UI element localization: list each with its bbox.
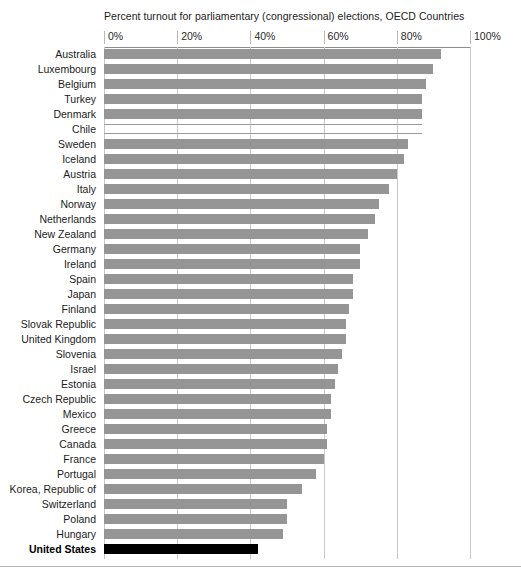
- bar: [104, 544, 258, 554]
- bar-row-label: Spain: [0, 273, 96, 285]
- bar: [104, 304, 349, 314]
- x-axis-tick-label: 100%: [470, 30, 501, 42]
- x-axis-tick-label: 20%: [177, 30, 202, 42]
- bar-row: Sweden: [0, 137, 521, 152]
- bar-row-label: France: [0, 453, 96, 465]
- chart-title: Percent turnout for parliamentary (congr…: [104, 10, 464, 23]
- x-axis-tick-mark: [470, 31, 471, 44]
- bar-row: France: [0, 452, 521, 467]
- bar-row: Korea, Republic of: [0, 482, 521, 497]
- bar: [104, 514, 287, 524]
- x-axis-tick-label: 0%: [104, 30, 123, 42]
- bar-row: Hungary: [0, 527, 521, 542]
- bar: [104, 94, 422, 104]
- bar-row-label: Iceland: [0, 153, 96, 165]
- bar-row: Greece: [0, 422, 521, 437]
- bar: [104, 454, 324, 464]
- bar: [104, 199, 379, 209]
- x-axis-tick-text: 80%: [401, 30, 422, 42]
- bar-row: Mexico: [0, 407, 521, 422]
- x-axis-tick-label: 40%: [250, 30, 275, 42]
- x-axis-tick-mark: [177, 31, 178, 44]
- bar: [104, 274, 353, 284]
- bar: [104, 109, 422, 119]
- bar-row: Japan: [0, 287, 521, 302]
- bar: [104, 169, 397, 179]
- x-axis-tick-mark: [324, 31, 325, 44]
- bar-row: Belgium: [0, 77, 521, 92]
- bar: [104, 394, 331, 404]
- x-axis-tick-text: 60%: [328, 30, 349, 42]
- bar-row-label: Finland: [0, 303, 96, 315]
- bar-row-label: New Zealand: [0, 228, 96, 240]
- bar-row: Denmark: [0, 107, 521, 122]
- bar: [104, 379, 335, 389]
- bar-row: Estonia: [0, 377, 521, 392]
- bar-row-label: Switzerland: [0, 498, 96, 510]
- bar: [104, 499, 287, 509]
- x-axis-tick-text: 0%: [108, 30, 123, 42]
- bar-row-label: United Kingdom: [0, 333, 96, 345]
- chart-left-edge: [0, 0, 1, 566]
- bar-row-label: Canada: [0, 438, 96, 450]
- bar: [104, 229, 368, 239]
- bar-row-label: Germany: [0, 243, 96, 255]
- bar-row: Norway: [0, 197, 521, 212]
- bar: [104, 139, 408, 149]
- bar-row-label: Norway: [0, 198, 96, 210]
- bar-row-label: Netherlands: [0, 213, 96, 225]
- bar-row-label: Greece: [0, 423, 96, 435]
- bar-row-label: United States: [0, 543, 96, 555]
- x-axis-tick-mark: [250, 31, 251, 44]
- bar-row-label: Sweden: [0, 138, 96, 150]
- bar-row: Czech Republic: [0, 392, 521, 407]
- bar-row-label: Slovenia: [0, 348, 96, 360]
- x-axis-tick-text: 20%: [181, 30, 202, 42]
- bar: [104, 469, 316, 479]
- x-axis-tick-mark: [397, 31, 398, 44]
- chart-bottom-rule: [0, 566, 521, 567]
- bar-row-label: Hungary: [0, 528, 96, 540]
- bar-row-label: Slovak Republic: [0, 318, 96, 330]
- bar-row-label: Japan: [0, 288, 96, 300]
- bar-row-label: Korea, Republic of: [0, 483, 96, 495]
- bar-row: Ireland: [0, 257, 521, 272]
- bar-rows: AustraliaLuxembourgBelgiumTurkeyDenmarkC…: [0, 47, 521, 553]
- bar: [104, 529, 283, 539]
- bar: [104, 289, 353, 299]
- bar-row-label: Australia: [0, 48, 96, 60]
- bar-row: Germany: [0, 242, 521, 257]
- bar: [104, 484, 302, 494]
- bar-row-label: Ireland: [0, 258, 96, 270]
- x-axis-tick-labels: 0%20%40%60%80%100%: [0, 29, 521, 45]
- bar-row-label: Mexico: [0, 408, 96, 420]
- bar-row-label: Italy: [0, 183, 96, 195]
- bar: [104, 124, 422, 134]
- bar: [104, 364, 338, 374]
- bar-row: Poland: [0, 512, 521, 527]
- x-axis-tick-text: 100%: [474, 30, 501, 42]
- bar-row: United States: [0, 542, 521, 557]
- bar-row-label: Poland: [0, 513, 96, 525]
- bar: [104, 79, 426, 89]
- bar-row: Finland: [0, 302, 521, 317]
- bar-row-label: Belgium: [0, 78, 96, 90]
- bar-row: Turkey: [0, 92, 521, 107]
- bar-row: Israel: [0, 362, 521, 377]
- bar-row: Portugal: [0, 467, 521, 482]
- bar-row: Austria: [0, 167, 521, 182]
- bar-row: Spain: [0, 272, 521, 287]
- bar: [104, 424, 327, 434]
- bar: [104, 214, 375, 224]
- bar-row: Chile: [0, 122, 521, 137]
- x-axis-tick-text: 40%: [254, 30, 275, 42]
- x-axis-tick-mark: [104, 31, 105, 44]
- bar-row: Slovak Republic: [0, 317, 521, 332]
- bar: [104, 154, 404, 164]
- bar: [104, 64, 433, 74]
- bar-row-label: Turkey: [0, 93, 96, 105]
- bar: [104, 319, 346, 329]
- bar-row-label: Luxembourg: [0, 63, 96, 75]
- bar-row-label: Austria: [0, 168, 96, 180]
- bar-row-label: Chile: [0, 123, 96, 135]
